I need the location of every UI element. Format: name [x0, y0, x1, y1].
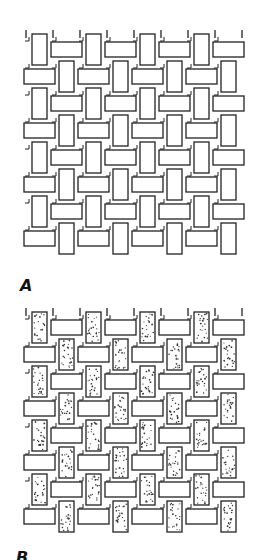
weft-strand	[213, 320, 244, 335]
weft-strand	[132, 347, 163, 362]
panel-label-a: A	[20, 276, 32, 295]
weft-strand	[78, 177, 109, 192]
warp-strand	[167, 61, 182, 92]
weft-strand	[186, 69, 217, 84]
weft-strand	[78, 509, 109, 524]
weft-strand	[159, 42, 190, 57]
weft-strand	[51, 42, 82, 57]
warp-strand	[140, 366, 155, 397]
weft-strand	[24, 231, 55, 246]
warp-strand	[194, 474, 209, 505]
warp-strand	[140, 196, 155, 227]
warp-strand	[140, 312, 155, 343]
warp-strand	[59, 169, 74, 200]
warp-strand	[32, 34, 47, 65]
weft-strand	[51, 96, 82, 111]
weft-strand	[132, 177, 163, 192]
weft-strand	[24, 69, 55, 84]
weft-strand	[105, 96, 136, 111]
weft-strand	[24, 509, 55, 524]
warp-strand	[140, 474, 155, 505]
warp-strand	[86, 474, 101, 505]
weft-strand	[51, 374, 82, 389]
weft-strand	[213, 374, 244, 389]
warp-strand	[32, 420, 47, 451]
warp-strand	[221, 115, 236, 146]
weft-strand	[186, 401, 217, 416]
weft-strand	[105, 482, 136, 497]
warp-strand	[221, 61, 236, 92]
weft-strand	[186, 509, 217, 524]
weft-strand	[51, 482, 82, 497]
weft-strand	[24, 123, 55, 138]
warp-strand	[194, 196, 209, 227]
weft-strand	[213, 96, 244, 111]
weft-strand	[159, 204, 190, 219]
weft-strand	[105, 428, 136, 443]
warp-strand	[86, 196, 101, 227]
warp-strand	[59, 61, 74, 92]
warp-strand	[86, 366, 101, 397]
warp-strand	[140, 88, 155, 119]
weft-strand	[78, 455, 109, 470]
warp-strand	[113, 115, 128, 146]
warp-strand	[167, 115, 182, 146]
warp-strand	[221, 169, 236, 200]
weft-strand	[186, 177, 217, 192]
warp-strand	[59, 115, 74, 146]
warp-strand	[59, 223, 74, 254]
weft-strand	[159, 96, 190, 111]
weft-strand	[159, 150, 190, 165]
weft-strand	[132, 401, 163, 416]
weft-strand	[213, 428, 244, 443]
weft-strand	[78, 123, 109, 138]
weft-strand	[213, 42, 244, 57]
weave-panel-b	[0, 296, 261, 560]
warp-strand	[167, 223, 182, 254]
warp-strand	[113, 61, 128, 92]
warp-strand	[113, 501, 128, 532]
weft-strand	[132, 69, 163, 84]
warp-strand	[221, 223, 236, 254]
warp-strand	[86, 142, 101, 173]
weft-strand	[159, 428, 190, 443]
weft-strand	[213, 204, 244, 219]
warp-strand	[194, 420, 209, 451]
weft-strand	[132, 123, 163, 138]
weft-strand	[132, 509, 163, 524]
warp-strand	[113, 223, 128, 254]
weft-strand	[159, 482, 190, 497]
weft-strand	[105, 320, 136, 335]
warp-strand	[32, 196, 47, 227]
weft-strand	[105, 42, 136, 57]
weft-strand	[186, 347, 217, 362]
weft-strand	[132, 231, 163, 246]
warp-strand	[221, 447, 236, 478]
weft-strand	[78, 231, 109, 246]
weft-strand	[51, 204, 82, 219]
weft-strand	[78, 69, 109, 84]
warp-strand	[140, 34, 155, 65]
weft-strand	[159, 374, 190, 389]
weft-strand	[51, 320, 82, 335]
warp-strand	[86, 88, 101, 119]
panel-label-b: B	[16, 548, 28, 560]
weave-diagram-a	[0, 0, 261, 270]
warp-strand	[59, 393, 74, 424]
weave-diagram-b	[0, 296, 261, 560]
weave-panel-a	[0, 0, 261, 270]
warp-strand	[167, 393, 182, 424]
weft-strand	[159, 320, 190, 335]
warp-strand	[194, 142, 209, 173]
warp-strand	[32, 142, 47, 173]
weft-strand	[186, 455, 217, 470]
weft-strand	[213, 482, 244, 497]
weft-strand	[51, 150, 82, 165]
weft-strand	[51, 428, 82, 443]
weft-strand	[213, 150, 244, 165]
weft-strand	[186, 123, 217, 138]
weft-strand	[24, 401, 55, 416]
weft-strand	[78, 401, 109, 416]
weft-strand	[105, 204, 136, 219]
weft-strand	[24, 347, 55, 362]
